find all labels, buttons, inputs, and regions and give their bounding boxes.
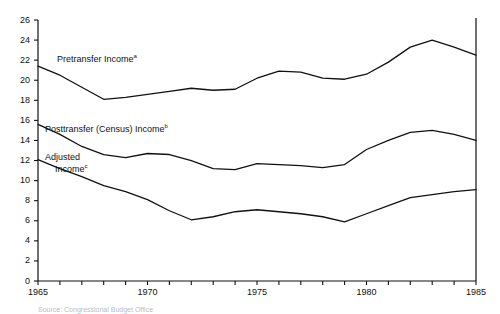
x-tick-label: 1965 [18, 288, 58, 297]
y-tick-label: 16 [8, 116, 30, 125]
y-tick-label: 12 [8, 156, 30, 165]
adjusted-label-line2: Incomec [55, 163, 88, 174]
y-tick-label: 10 [8, 176, 30, 185]
y-tick-label: 4 [8, 236, 30, 245]
y-tick-label: 20 [8, 76, 30, 85]
y-tick-label: 6 [8, 216, 30, 225]
x-tick-label: 1975 [237, 288, 277, 297]
footnote-marker: b [165, 123, 168, 129]
x-tick-label: 1985 [456, 288, 496, 297]
y-tick-label: 8 [8, 196, 30, 205]
y-tick-label: 2 [8, 256, 30, 265]
x-axis-ticks [38, 281, 476, 285]
y-tick-label: 14 [8, 136, 30, 145]
series-line [38, 160, 476, 222]
x-tick-label: 1980 [347, 288, 387, 297]
y-tick-label: 22 [8, 56, 30, 65]
y-tick-label: 0 [8, 277, 30, 286]
pretransfer-label: Pretransfer Incomea [57, 53, 137, 64]
y-tick-label: 26 [8, 16, 30, 25]
footnote-marker: c [85, 163, 88, 169]
y-tick-label: 18 [8, 96, 30, 105]
footnote-marker: a [134, 53, 137, 59]
source-note: Source: Congressional Budget Office [38, 306, 468, 314]
y-tick-label: 24 [8, 36, 30, 45]
adjusted-label-line1: Adjusted [45, 152, 80, 162]
series-line [38, 40, 476, 99]
posttransfer-label: Posttransfer (Census) Incomeb [45, 123, 168, 134]
x-tick-label: 1970 [128, 288, 168, 297]
